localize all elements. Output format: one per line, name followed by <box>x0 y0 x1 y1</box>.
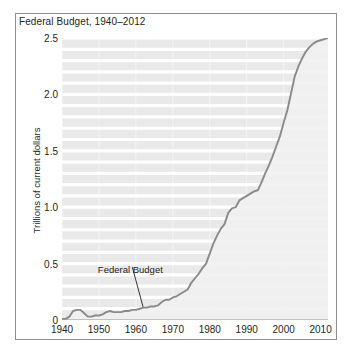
annotation-label: Federal Budget <box>98 264 163 275</box>
chart-figure: Federal Budget, 1940–2012 Trillions of c… <box>0 0 353 355</box>
x-tick-label: 1950 <box>88 324 110 335</box>
chart-title: Federal Budget, 1940–2012 <box>19 16 146 27</box>
y-tick-label: 1.0 <box>18 202 58 213</box>
y-axis-tick-labels: 00.51.01.52.02.5 <box>14 38 58 320</box>
x-axis-tick-labels: 19401950196019701980199020002010 <box>62 324 328 340</box>
y-tick-label: 0.5 <box>18 258 58 269</box>
x-tick-label: 2000 <box>273 324 295 335</box>
x-tick-label: 1980 <box>199 324 221 335</box>
y-tick-label: 2.0 <box>18 89 58 100</box>
y-tick-label: 2.5 <box>18 33 58 44</box>
x-tick-label: 1940 <box>51 324 73 335</box>
y-tick-label: 1.5 <box>18 145 58 156</box>
x-tick-label: 1960 <box>125 324 147 335</box>
x-tick-label: 2010 <box>309 324 331 335</box>
x-tick-label: 1970 <box>162 324 184 335</box>
line-chart-svg <box>62 38 328 320</box>
plot-area <box>62 38 328 320</box>
x-tick-label: 1990 <box>236 324 258 335</box>
